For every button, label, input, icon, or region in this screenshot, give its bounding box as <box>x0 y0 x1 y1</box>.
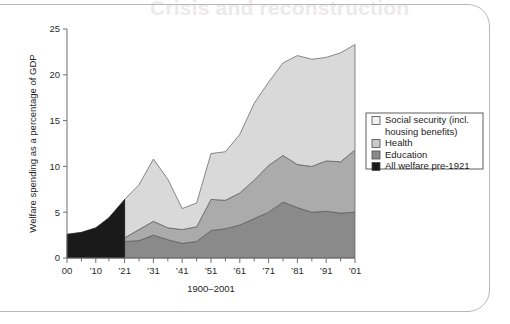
x-tick-label: ’10 <box>89 265 102 276</box>
legend-swatch-0 <box>372 117 380 125</box>
x-tick-label: 00 <box>62 265 73 276</box>
legend-label-0: Social security (incl. <box>385 114 469 125</box>
y-tick-label: 15 <box>49 115 60 126</box>
area-band-all-welfare-pre-1921 <box>67 199 125 258</box>
x-tick-label: ’81 <box>291 265 304 276</box>
x-tick-label: ’01 <box>349 265 362 276</box>
y-tick-label: 10 <box>49 161 60 172</box>
x-tick-label: ’31 <box>147 265 160 276</box>
y-tick-label: 20 <box>49 69 60 80</box>
legend-swatch-1 <box>372 140 380 148</box>
legend-swatch-3 <box>372 163 380 171</box>
legend-label-3: All welfare pre-1921 <box>385 160 470 171</box>
x-axis-title: 1900–2001 <box>187 283 235 294</box>
x-tick-label: ’91 <box>320 265 333 276</box>
legend-label-0-line2: housing benefits) <box>385 126 457 137</box>
x-tick-label: ’61 <box>233 265 246 276</box>
legend-label-1: Health <box>385 137 412 148</box>
stacked-area-chart-figure: 051015202500’10’21’31’41’51’61’71’81’91’… <box>0 0 510 324</box>
x-tick-label: ’41 <box>176 265 189 276</box>
legend-label-2: Education <box>385 149 427 160</box>
y-axis-title: Welfare spending as a percentage of GDP <box>27 54 38 232</box>
chart-canvas: 051015202500’10’21’31’41’51’61’71’81’91’… <box>0 0 510 324</box>
legend-swatch-2 <box>372 151 380 159</box>
y-tick-label: 5 <box>55 207 60 218</box>
x-tick-label: ’51 <box>205 265 218 276</box>
y-tick-label: 25 <box>49 23 60 34</box>
x-tick-label: ’21 <box>118 265 131 276</box>
x-tick-label: ’71 <box>262 265 275 276</box>
y-tick-label: 0 <box>55 252 60 263</box>
